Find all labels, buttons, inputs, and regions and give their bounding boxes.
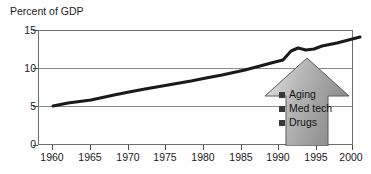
legend-swatch-icon: [279, 106, 285, 112]
legend-label-aging: Aging: [289, 89, 316, 100]
plot-area: Aging Med tech Drugs: [38, 30, 353, 145]
x-tick-label-1980: 1980: [183, 152, 223, 163]
legend-label-drugs: Drugs: [289, 117, 317, 128]
x-tick-label-1990: 1990: [258, 152, 298, 163]
legend-label-med-tech: Med tech: [289, 103, 332, 114]
x-tick-mark-1970: [128, 145, 129, 150]
page-title: Percent of GDP: [10, 5, 84, 17]
x-tick-mark-1990: [278, 145, 279, 150]
x-tick-mark-1965: [90, 145, 91, 150]
x-tick-mark-1960: [52, 145, 53, 150]
x-tick-mark-1975: [165, 145, 166, 150]
chart-figure: Percent of GDP 15 10 5 0: [0, 0, 371, 174]
legend-swatch-icon: [279, 120, 285, 126]
x-tick-mark-2000: [352, 145, 353, 150]
x-tick-mark-1995: [316, 145, 317, 150]
x-tick-label-1965: 1965: [70, 152, 110, 163]
x-tick-label-2000: 2000: [331, 152, 371, 163]
arrow-callout: Aging Med tech Drugs: [264, 56, 350, 146]
legend-swatch-icon: [279, 92, 285, 98]
legend: Aging Med tech Drugs: [279, 88, 345, 130]
x-tick-mark-1980: [203, 145, 204, 150]
legend-item-drugs[interactable]: Drugs: [279, 116, 345, 129]
x-tick-label-1995: 1995: [296, 152, 336, 163]
legend-item-aging[interactable]: Aging: [279, 88, 345, 101]
x-tick-label-1985: 1985: [221, 152, 261, 163]
x-tick-label-1975: 1975: [145, 152, 185, 163]
x-tick-label-1970: 1970: [108, 152, 148, 163]
y-tick-mark-0: [33, 145, 38, 146]
x-tick-label-1960: 1960: [32, 152, 72, 163]
legend-item-med-tech[interactable]: Med tech: [279, 102, 345, 115]
x-tick-mark-1985: [241, 145, 242, 150]
